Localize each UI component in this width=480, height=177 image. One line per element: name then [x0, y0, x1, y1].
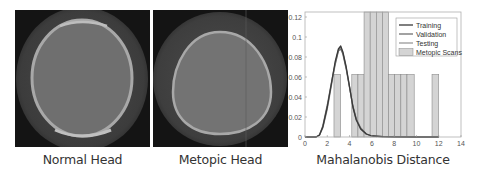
x-tick-label: 6	[370, 140, 374, 147]
histogram-bar	[407, 75, 414, 138]
histogram-bar	[376, 12, 382, 137]
x-tick-label: 0	[303, 140, 307, 147]
histogram-bar	[364, 12, 370, 137]
y-tick-label: 0	[298, 134, 302, 141]
x-tick-label: 12	[435, 140, 443, 147]
metopic-head-scan-image	[153, 10, 288, 147]
histogram-bar	[370, 12, 376, 137]
metopic-head-caption: Metopic Head	[153, 152, 288, 167]
y-axis-ticks: 00.020.040.060.080.10.12	[288, 14, 307, 141]
x-tick-label: 8	[392, 140, 396, 147]
y-tick-label: 0.08	[288, 54, 302, 61]
x-tick-label: 2	[325, 140, 329, 147]
histogram-bar	[432, 75, 439, 138]
legend-label: Metopic Scans	[416, 49, 462, 57]
legend-swatch	[399, 49, 413, 56]
normal-head-scan-image	[15, 10, 150, 147]
x-tick-label: 4	[348, 140, 352, 147]
mahalanobis-distance-chart: 00.020.040.060.080.10.12 02468101214 Tra…	[282, 4, 477, 149]
y-tick-label: 0.12	[288, 14, 302, 21]
histogram-bar	[382, 12, 388, 137]
y-tick-label: 0.02	[288, 114, 302, 121]
x-tick-label: 14	[457, 140, 465, 147]
histogram-bar	[395, 75, 401, 138]
histogram-bar	[401, 75, 407, 138]
legend-label: Training	[416, 22, 441, 30]
x-tick-label: 10	[413, 140, 421, 147]
y-tick-label: 0.1	[292, 34, 302, 41]
legend-label: Validation	[416, 31, 446, 38]
legend: TrainingValidationTestingMetopic Scans	[396, 18, 462, 57]
histogram-bar	[389, 75, 395, 138]
x-axis-label: Mahalanobis Distance	[305, 152, 461, 167]
y-tick-label: 0.06	[288, 74, 302, 81]
y-tick-label: 0.04	[288, 94, 302, 101]
legend-label: Testing	[416, 40, 438, 48]
normal-head-caption: Normal Head	[15, 152, 150, 167]
histogram-bar	[334, 75, 341, 138]
